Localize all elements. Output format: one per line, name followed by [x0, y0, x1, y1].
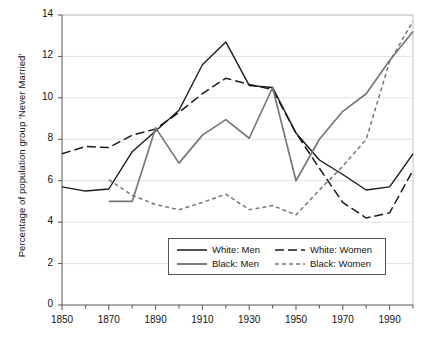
y-axis-tick-label: 8: [31, 132, 53, 143]
y-axis-tick-label: 6: [31, 174, 53, 185]
chart-container: Percentage of population group 'Never Ma…: [0, 0, 423, 337]
x-axis-tick-label: 1930: [229, 314, 269, 325]
y-axis-tick-label: 2: [31, 257, 53, 268]
y-axis-tick-label: 10: [31, 91, 53, 102]
chart-legend: White: MenWhite: WomenBlack: MenBlack: W…: [168, 238, 386, 275]
x-axis-tick-label: 1850: [42, 314, 82, 325]
series-line-black-women: [109, 21, 413, 215]
legend-entry: White: Men: [177, 244, 265, 255]
legend-entry: Black: Women: [275, 258, 377, 269]
y-axis-tick-label: 4: [31, 215, 53, 226]
legend-swatch-dashed: [275, 246, 305, 254]
series-line-white-men: [62, 42, 413, 191]
legend-entry: White: Women: [275, 244, 377, 255]
x-axis-tick-label: 1990: [370, 314, 410, 325]
legend-label: White: Women: [310, 244, 372, 255]
legend-label: Black: Men: [212, 258, 259, 269]
y-axis-tick-label: 12: [31, 49, 53, 60]
legend-label: White: Men: [212, 244, 260, 255]
x-axis-tick-label: 1890: [136, 314, 176, 325]
legend-swatch-solid: [177, 260, 207, 268]
legend-swatch-dotted: [275, 260, 305, 268]
legend-label: Black: Women: [310, 258, 371, 269]
legend-swatch-solid: [177, 246, 207, 254]
y-axis-tick-label: 0: [31, 298, 53, 309]
x-axis-tick-label: 1970: [323, 314, 363, 325]
x-axis-tick-label: 1870: [89, 314, 129, 325]
y-axis-tick-label: 14: [31, 8, 53, 19]
x-axis-tick-label: 1910: [182, 314, 222, 325]
plot-canvas: [0, 0, 423, 337]
x-axis-tick-label: 1950: [276, 314, 316, 325]
legend-entry: Black: Men: [177, 258, 265, 269]
series-line-black-men: [109, 32, 413, 202]
